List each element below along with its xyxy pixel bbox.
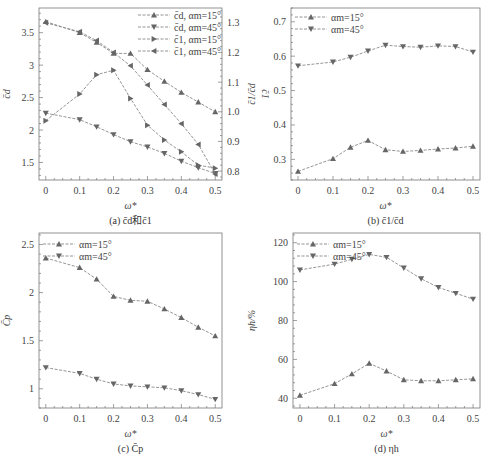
series-0 (295, 137, 476, 173)
legend-label: αm=45° (79, 251, 112, 262)
y-axis-title: C̄p (1, 315, 12, 327)
triangle-right-marker-icon (213, 165, 218, 171)
x-axis: 00.10.20.30.40.5ω* (43, 176, 221, 211)
x-axis-title: ω* (124, 428, 136, 439)
chart-c: 00.10.20.30.40.5ω*11.522.5C̄pαm=15°αm=45… (0, 228, 245, 457)
y-tick-label: 1.5 (22, 335, 35, 346)
series-2 (43, 67, 218, 171)
y-tick-label: 3.5 (22, 27, 35, 38)
x-tick-label: 0.3 (398, 413, 411, 424)
y-tick-label-right: 1.0 (227, 106, 240, 117)
x-tick-label: 0.4 (432, 413, 445, 424)
x-tick-label: 0 (297, 413, 302, 424)
y-tick-label: 40 (278, 393, 288, 404)
x-axis: 00.10.20.30.40.5ω* (297, 404, 479, 439)
triangle-up-marker-icon (435, 378, 441, 383)
y-tick-label-right: 0.8 (227, 166, 240, 177)
series-line (46, 258, 215, 336)
triangle-up-marker-icon (400, 148, 406, 153)
panel-a: 00.10.20.30.40.5ω*1.522.533.5c̄d0.80.91.… (0, 0, 245, 228)
x-tick-label: 0 (296, 185, 301, 196)
triangle-left-marker-icon (151, 48, 156, 54)
triangle-down-marker-icon (128, 383, 134, 388)
y-tick-label: 0.5 (274, 85, 287, 96)
panel-c: 00.10.20.30.40.5ω*11.522.5C̄pαm=15°αm=45… (0, 228, 245, 457)
triangle-down-marker-icon (297, 268, 303, 273)
panel-caption: (c) C̄p (118, 443, 143, 455)
y-tick-label: 60 (278, 354, 288, 365)
triangle-up-marker-icon (384, 368, 390, 373)
triangle-up-marker-icon (332, 381, 338, 386)
chart-a: 00.10.20.30.40.5ω*1.522.533.5c̄d0.80.91.… (0, 0, 245, 228)
panel-caption: (a) c̄d和c̄1 (109, 215, 151, 227)
x-tick-label: 0.2 (107, 413, 120, 424)
x-tick-label: 0.5 (209, 185, 222, 196)
triangle-up-marker-icon (366, 360, 372, 365)
series-1 (43, 111, 218, 177)
triangle-up-marker-icon (383, 147, 389, 152)
triangle-up-marker-icon (330, 156, 336, 161)
triangle-down-marker-icon (470, 297, 476, 302)
y-axis-left: 406080100120ηh/% (246, 235, 297, 406)
series-line (46, 368, 215, 400)
x-axis-title: ω* (380, 428, 392, 439)
triangle-right-marker-icon (179, 149, 184, 155)
triangle-left-marker-icon (178, 121, 183, 127)
x-tick-label: 0.5 (467, 185, 480, 196)
y-tick-label: 1.5 (22, 157, 35, 168)
x-tick-label: 0.1 (73, 413, 86, 424)
legend: αm=15°αm=45° (297, 239, 366, 262)
series-0 (43, 255, 218, 338)
x-tick-label: 0.4 (175, 185, 188, 196)
triangle-right-marker-icon (43, 118, 48, 124)
y-tick-label: 0.4 (274, 119, 287, 130)
x-tick-label: 0.2 (107, 185, 120, 196)
x-axis-title: ω* (379, 200, 391, 211)
legend-label: c̄d, αm=15° (174, 10, 221, 21)
triangle-down-marker-icon (94, 124, 100, 129)
triangle-down-marker-icon (295, 63, 301, 68)
x-tick-label: 0.2 (363, 413, 376, 424)
triangle-left-marker-icon (195, 141, 200, 147)
legend-label: c̄1, αm=15° (174, 34, 221, 45)
legend: αm=15°αm=45° (295, 12, 364, 35)
x-axis: 00.10.20.30.40.5ω* (296, 176, 480, 211)
triangle-down-marker-icon (384, 255, 390, 260)
triangle-up-marker-icon (470, 143, 476, 148)
triangle-up-marker-icon (94, 276, 100, 281)
y-tick-label: 120 (273, 237, 288, 248)
triangle-up-marker-icon (348, 144, 354, 149)
x-tick-label: 0.1 (73, 185, 86, 196)
triangle-up-marker-icon (212, 333, 218, 338)
triangle-up-marker-icon (418, 147, 424, 152)
chart-d: 00.10.20.30.40.5ω*406080100120ηh/%αm=15°… (245, 228, 485, 457)
x-axis: 00.10.20.30.40.5ω* (43, 404, 221, 439)
y-axis-left: 11.522.5C̄p (1, 235, 43, 408)
series-line (298, 45, 473, 66)
y-axis-title: c̄d (1, 88, 12, 98)
series-line (300, 254, 473, 299)
x-tick-label: 0 (43, 413, 48, 424)
chart-b: 00.10.20.30.40.5ω*0.30.40.50.60.7c̄1/c̄d… (245, 0, 485, 228)
panel-caption: (b) c̄1/c̄d (368, 215, 404, 227)
triangle-right-marker-icon (162, 137, 167, 143)
panel-d: 00.10.20.30.40.5ω*406080100120ηh/%αm=15°… (245, 228, 485, 457)
y-tick-label: 0.7 (274, 16, 287, 27)
triangle-up-marker-icon (349, 371, 355, 376)
y-tick-label-right: 1.2 (227, 47, 240, 58)
triangle-up-marker-icon (178, 89, 184, 94)
triangle-down-marker-icon (212, 397, 218, 402)
series-1 (297, 252, 476, 302)
triangle-up-marker-icon (178, 315, 184, 320)
triangle-down-marker-icon (418, 276, 424, 281)
triangle-up-marker-icon (161, 78, 167, 83)
series-0 (297, 360, 476, 397)
legend-label: αm=15° (333, 239, 366, 250)
triangle-up-marker-icon (144, 298, 150, 303)
triangle-down-marker-icon (77, 117, 83, 122)
series-1 (43, 365, 218, 402)
triangle-down-marker-icon (161, 151, 167, 156)
series-line (46, 70, 215, 168)
y-tick-label: 3 (29, 60, 34, 71)
legend: c̄d, αm=15°c̄d, αm=45°c̄1, αm=15°c̄1, αm… (138, 10, 221, 57)
